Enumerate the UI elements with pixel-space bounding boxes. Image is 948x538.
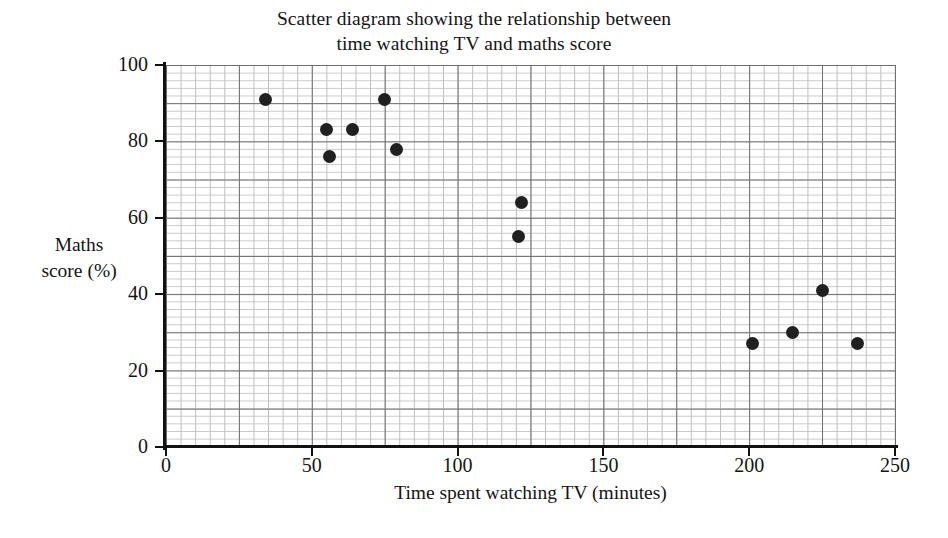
y-axis-line bbox=[163, 62, 166, 450]
data-point bbox=[851, 337, 864, 350]
chart-title: Scatter diagram showing the relationship… bbox=[0, 6, 948, 56]
data-point bbox=[816, 284, 829, 297]
y-axis-label: Maths score (%) bbox=[18, 232, 140, 284]
grid bbox=[166, 65, 895, 447]
y-axis-tick bbox=[155, 140, 166, 142]
data-point bbox=[323, 150, 336, 163]
chart-title-line-1: Scatter diagram showing the relationship… bbox=[0, 6, 948, 31]
x-axis-tick-label: 200 bbox=[719, 455, 779, 475]
y-axis-label-line-2: score (%) bbox=[18, 258, 140, 284]
y-axis-tick-label: 20 bbox=[96, 360, 148, 380]
y-axis-tick bbox=[155, 64, 166, 66]
y-axis-tick-label: 80 bbox=[96, 130, 148, 150]
y-axis-tick-label: 40 bbox=[96, 283, 148, 303]
x-axis-tick-label: 100 bbox=[428, 455, 488, 475]
x-axis-tick-label: 50 bbox=[282, 455, 342, 475]
x-axis-tick-label: 250 bbox=[865, 455, 925, 475]
y-axis-tick bbox=[155, 370, 166, 372]
data-point bbox=[746, 337, 759, 350]
plot-area bbox=[166, 65, 895, 447]
y-axis-tick-label: 0 bbox=[96, 436, 148, 456]
scatter-chart-figure: Scatter diagram showing the relationship… bbox=[0, 0, 948, 538]
x-axis-tick-label: 0 bbox=[136, 455, 196, 475]
x-axis-label: Time spent watching TV (minutes) bbox=[166, 481, 895, 505]
y-axis-tick-label: 60 bbox=[96, 207, 148, 227]
y-axis-tick bbox=[155, 293, 166, 295]
data-point bbox=[259, 93, 272, 106]
x-axis-line bbox=[163, 445, 898, 448]
data-point bbox=[390, 143, 403, 156]
y-axis-label-line-1: Maths bbox=[18, 232, 140, 258]
y-axis-tick bbox=[155, 217, 166, 219]
x-axis-tick-label: 150 bbox=[573, 455, 633, 475]
y-axis-tick-label: 100 bbox=[96, 54, 148, 74]
data-point bbox=[378, 93, 391, 106]
